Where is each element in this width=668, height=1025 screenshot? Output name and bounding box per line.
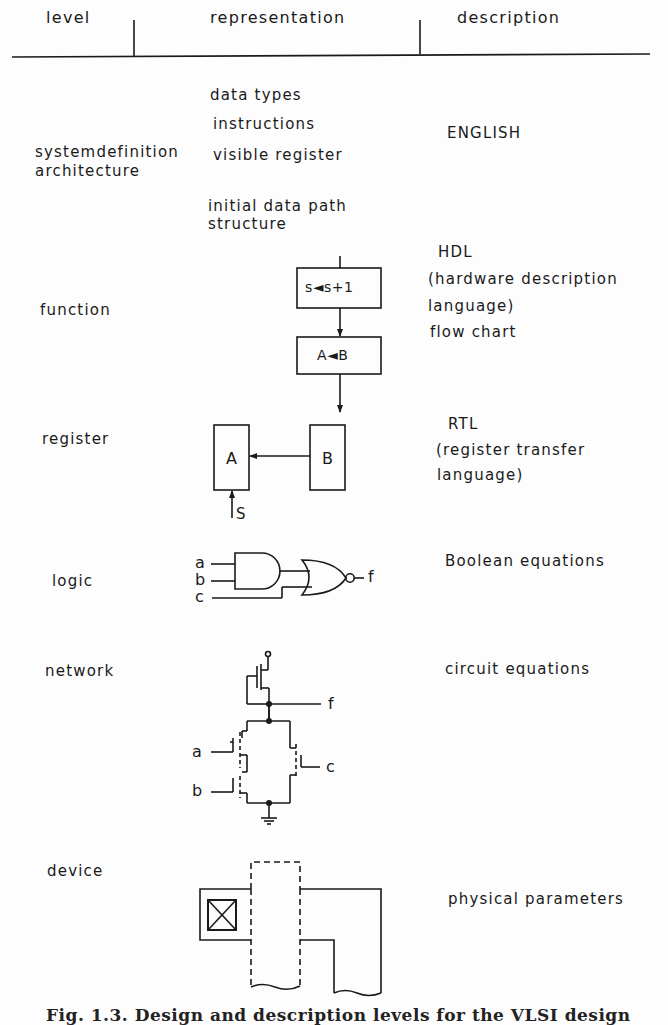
header-underline [12,54,650,57]
logic-output-f: f [368,567,375,586]
flow-box-transfer-label: A◄B [317,346,348,365]
logic-gate-diagram [211,553,364,598]
register-transfer-diagram [214,425,345,518]
device-layout [200,862,381,996]
network-input-b: b [192,781,203,800]
transistor-schematic [211,652,321,825]
nor-gate [302,560,346,595]
network-input-a: a [192,742,203,761]
register-a-label: A [226,449,238,468]
register-s-label: S [236,505,247,524]
network-output-f: f [328,694,335,713]
logic-input-c: c [195,587,205,606]
and-gate [235,553,280,589]
figure-caption: Fig. 1.3. Design and description levels … [46,1005,631,1025]
register-b-label: B [322,449,334,468]
network-input-c: c [326,757,336,776]
inverter-bubble [346,574,354,582]
flow-box-increment-label: s◄s+1 [305,278,354,297]
